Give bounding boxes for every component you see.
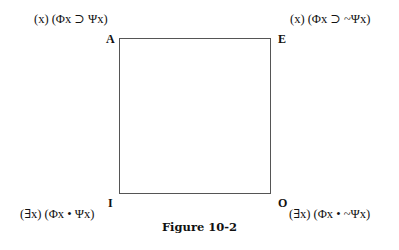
formula-o: (∃x) (Φx • ~Ψx) [289, 207, 370, 221]
corner-label-o: O [278, 197, 287, 209]
formula-i: (∃x) (Φx • Ψx) [20, 207, 94, 221]
corner-label-e: E [278, 33, 286, 45]
corner-label-a: A [106, 33, 115, 45]
formula-e: (x) (Φx ⊃ ~Ψx) [290, 12, 370, 26]
opposition-square [119, 38, 271, 194]
corner-label-i: I [108, 197, 113, 209]
figure-caption: Figure 10-2 [0, 220, 399, 234]
formula-a: (x) (Φx ⊃ Ψx) [34, 12, 108, 26]
